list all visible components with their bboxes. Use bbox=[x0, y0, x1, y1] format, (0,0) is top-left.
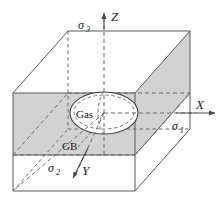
gas-label: Gas bbox=[76, 108, 93, 120]
gas-bubble-grain-boundary-diagram: Z σ 3 X σ 1 Y σ 2 Gas GB bbox=[0, 0, 220, 201]
sigma3-subscript: 3 bbox=[85, 25, 90, 34]
sigma1-subscript: 1 bbox=[180, 126, 184, 135]
diagram-canvas: Z σ 3 X σ 1 Y σ 2 Gas GB bbox=[0, 0, 220, 201]
sigma2-label: σ bbox=[48, 161, 55, 175]
sigma2-subscript: 2 bbox=[56, 168, 60, 177]
axis-y-label: Y bbox=[82, 163, 91, 178]
sigma1-label: σ bbox=[172, 119, 179, 133]
axis-z-label: Z bbox=[111, 9, 119, 24]
sigma3-label: σ bbox=[78, 18, 85, 32]
axis-x-label: X bbox=[195, 97, 205, 112]
gb-label: GB bbox=[62, 140, 77, 152]
